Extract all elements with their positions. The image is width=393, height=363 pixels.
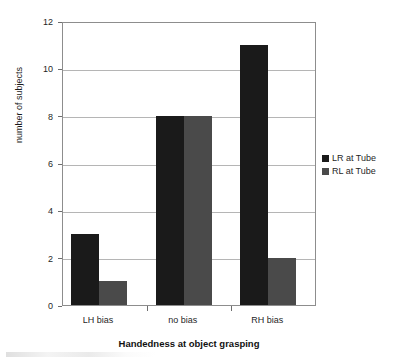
gridline <box>63 70 315 71</box>
y-tick-label: 8 <box>48 112 53 121</box>
x-tick-mark <box>147 306 148 311</box>
bar <box>156 116 184 305</box>
chart-legend: LR at TubeRL at Tube <box>322 152 376 178</box>
y-tick-label: 10 <box>43 65 53 74</box>
x-tick-label: no bias <box>168 315 197 325</box>
legend-label: LR at Tube <box>332 153 376 163</box>
bar <box>71 234 99 305</box>
bar <box>99 281 127 305</box>
bar-chart-figure: 121086420 number of subjects LH biasno b… <box>0 0 393 363</box>
x-axis-title: Handedness at object grasping <box>62 338 316 349</box>
bar <box>240 45 268 305</box>
y-tick-label: 12 <box>43 18 53 27</box>
y-axis-ticks: 121086420 <box>0 0 62 363</box>
legend-swatch-icon <box>322 155 329 162</box>
x-tick-label: LH bias <box>83 315 114 325</box>
bar <box>184 116 212 305</box>
legend-item: RL at Tube <box>322 165 376 177</box>
y-tick-label: 2 <box>48 254 53 263</box>
y-tick-label: 0 <box>48 302 53 311</box>
y-axis-title: number of subjects <box>14 40 24 170</box>
y-tick-label: 4 <box>48 207 53 216</box>
scan-artifact <box>6 352 156 357</box>
legend-label: RL at Tube <box>332 166 376 176</box>
bar <box>268 258 296 305</box>
legend-item: LR at Tube <box>322 152 376 164</box>
legend-swatch-icon <box>322 168 329 175</box>
plot-area <box>62 22 316 306</box>
x-tick-label: RH bias <box>251 315 283 325</box>
y-tick-label: 6 <box>48 160 53 169</box>
x-tick-mark <box>231 306 232 311</box>
